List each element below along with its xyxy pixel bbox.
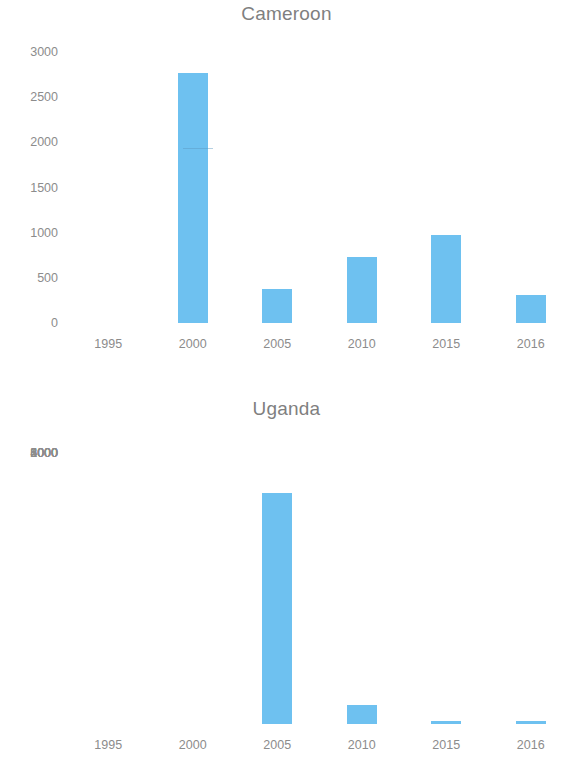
- y-tick-label: 500: [0, 272, 58, 285]
- x-axis-cameroon: 1995 2000 2005 2010 2015 2016: [66, 338, 573, 351]
- x-tick-label: 1995: [66, 338, 151, 351]
- bar-uganda-2010[interactable]: [347, 705, 377, 724]
- bar-slot: [404, 52, 489, 323]
- x-tick-label: 2005: [235, 739, 320, 752]
- x-tick-label: 2000: [151, 739, 236, 752]
- bar-slot: [235, 453, 320, 724]
- bar-slot: [320, 52, 405, 323]
- y-tick-label: 2000: [0, 136, 58, 149]
- x-tick-label: 2005: [235, 338, 320, 351]
- bar-cameroon-2016[interactable]: [516, 295, 546, 323]
- plot-area-cameroon: [66, 52, 573, 323]
- y-tick-label: 3000: [0, 46, 58, 59]
- bar-uganda-2016[interactable]: [516, 721, 546, 724]
- bar-uganda-2005[interactable]: [262, 493, 292, 724]
- bar-slot: [489, 453, 573, 724]
- x-tick-label: 2016: [489, 338, 573, 351]
- y-tick-label: 0: [0, 317, 58, 330]
- y-tick-label: 1000: [0, 226, 58, 239]
- bar-slot: [404, 453, 489, 724]
- bar-slot: [320, 453, 405, 724]
- y-axis-cameroon: 3000 2500 2000 1500 1000 500 0: [0, 52, 58, 323]
- y-tick-label: 0: [0, 447, 58, 460]
- bar-slot: [151, 52, 236, 323]
- chart-title-cameroon: Cameroon: [0, 3, 573, 25]
- chart-title-uganda: Uganda: [0, 398, 573, 420]
- bar-slot: [235, 52, 320, 323]
- y-tick-label: 1500: [0, 181, 58, 194]
- x-axis-uganda: 1995 2000 2005 2010 2015 2016: [66, 739, 573, 752]
- x-tick-label: 2016: [489, 739, 573, 752]
- bar-cameroon-2015[interactable]: [431, 235, 461, 323]
- x-tick-label: 1995: [66, 739, 151, 752]
- x-tick-label: 2010: [320, 739, 405, 752]
- x-tick-label: 2010: [320, 338, 405, 351]
- bar-group-cameroon: [66, 52, 573, 323]
- bar-slot: [151, 453, 236, 724]
- bar-cameroon-2000[interactable]: [178, 73, 208, 323]
- bar-cameroon-2005[interactable]: [262, 289, 292, 323]
- bar-slot: [66, 52, 151, 323]
- bar-cameroon-2010[interactable]: [347, 257, 377, 323]
- bar-slot: [66, 453, 151, 724]
- x-tick-label: 2015: [404, 338, 489, 351]
- plot-area-uganda: [66, 453, 573, 724]
- x-tick-label: 2000: [151, 338, 236, 351]
- chart-panel-cameroon: Cameroon 3000 2500 2000 1500 1000 500 0 …: [0, 0, 573, 380]
- y-tick-label: 2500: [0, 91, 58, 104]
- bar-slot: [489, 52, 573, 323]
- bar-uganda-2015[interactable]: [431, 721, 461, 724]
- x-tick-label: 2015: [404, 739, 489, 752]
- bar-group-uganda: [66, 453, 573, 724]
